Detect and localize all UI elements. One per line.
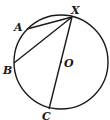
label-C: C <box>42 110 51 120</box>
label-O: O <box>64 57 74 70</box>
label-X: X <box>70 4 80 17</box>
circle-diagram: X A B C O <box>0 0 110 120</box>
label-A: A <box>13 21 23 34</box>
label-B: B <box>2 64 12 77</box>
center-point-O <box>60 61 62 63</box>
